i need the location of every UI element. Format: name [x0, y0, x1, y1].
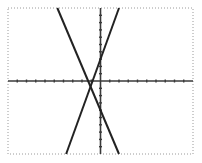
graph-plot — [0, 0, 202, 163]
